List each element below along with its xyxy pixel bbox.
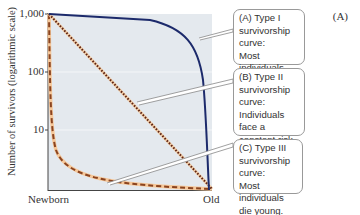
callout-type2-line: Individuals face a xyxy=(239,109,300,134)
x-tick-label-old: Old xyxy=(203,193,220,205)
callout-type3-title: (C) Type III xyxy=(239,142,298,155)
y-tick-label-10: 10 xyxy=(4,123,44,135)
survivorship-chart xyxy=(0,0,360,215)
y-tick-label-1000: 1,000 xyxy=(4,7,44,19)
callout-type1: (A) Type I survivorship curve: Most indi… xyxy=(233,9,305,65)
y-tick-label-100: 100 xyxy=(4,65,44,77)
y-axis-label: Number of survivors (logarithmic scale) xyxy=(6,26,20,176)
callout-type1-title: (A) Type I xyxy=(239,12,300,25)
callout-type2: (B) Type II survivorship curve: Individu… xyxy=(233,68,305,136)
callout-type3-line: Most individuals xyxy=(239,180,298,205)
callout-type2-title: (B) Type II xyxy=(239,71,300,84)
callout-type3-line: die young. xyxy=(239,205,298,215)
panel-label: (A) xyxy=(333,10,348,22)
x-tick-label-newborn: Newborn xyxy=(28,193,69,205)
callout-type3: (C) Type III survivorship curve: Most in… xyxy=(233,139,303,194)
callout-type3-line: survivorship curve: xyxy=(239,155,298,180)
callout-type2-line: survivorship curve: xyxy=(239,84,300,109)
callout-type1-line: survivorship curve: xyxy=(239,25,300,50)
